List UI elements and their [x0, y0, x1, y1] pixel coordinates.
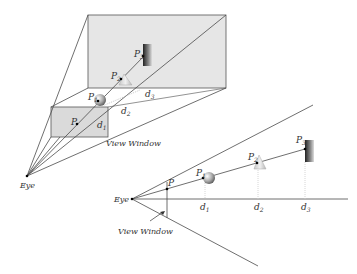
frustum-edge: [108, 88, 226, 107]
upper-diagram: [27, 15, 226, 176]
lower-eye-label: Eye: [113, 195, 129, 204]
lower-label-p: P: [167, 178, 175, 188]
perspective-diagram: P3 P2 P1 P d3 d2 d1 View Window Eye P P1…: [0, 0, 357, 274]
bar-object: [143, 44, 152, 66]
upper-view-window-label: View Window: [106, 139, 161, 148]
upper-eye-label: Eye: [19, 181, 35, 190]
lower-view-window-label: View Window: [118, 227, 173, 236]
lower-label-d1: d1: [200, 202, 210, 213]
frustum-edge: [27, 15, 88, 176]
lower-point-p: [166, 188, 169, 191]
lower-label-d2: d2: [254, 202, 264, 213]
lower-label-p2: P2: [247, 152, 258, 163]
upper-label-p1: P1: [87, 92, 98, 103]
far-plane: [88, 15, 226, 88]
upper-eye-point: [26, 175, 29, 178]
frustum-edge: [27, 137, 60, 176]
upper-label-p: P: [70, 117, 78, 127]
view-window-arrow: [150, 212, 163, 221]
lower-eye-point: [131, 198, 134, 201]
lower-bar-object: [305, 140, 314, 162]
lower-point-p3: [304, 148, 307, 151]
lower-label-p3: P3: [295, 135, 306, 146]
frustum-edge: [27, 137, 51, 176]
upper-boundary: [132, 105, 313, 199]
lower-label-d3: d3: [301, 202, 311, 213]
lower-diagram: [132, 105, 348, 266]
view-ray: [132, 149, 305, 199]
upper-label-d3: d3: [145, 89, 155, 100]
lower-label-p1: P1: [195, 168, 206, 179]
distance-guide: [100, 90, 140, 107]
upper-label-d2: d2: [121, 106, 131, 117]
